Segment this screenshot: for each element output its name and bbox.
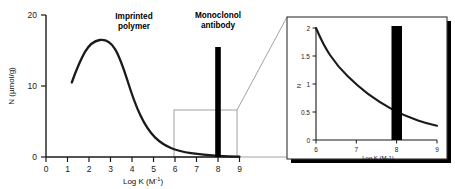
main-ytick-10: 10 — [28, 81, 38, 91]
inset-xtick-8: 8 — [395, 146, 399, 153]
inset-y-axis-label: N — [296, 84, 302, 88]
inset-ytick-1: 1 — [306, 81, 310, 88]
monoclonal-antibody-spike — [215, 47, 221, 157]
inset-ytick-0: 0 — [306, 137, 310, 144]
inset-monoclonal-antibody-spike — [392, 26, 403, 140]
imprinted-polymer-label-line1: Imprinted — [115, 12, 152, 21]
main-xtick-3: 3 — [108, 164, 113, 174]
monoclonal-antibody-label-line1: Monoclonol — [195, 11, 241, 20]
main-xtick-5: 5 — [151, 164, 156, 174]
main-ytick-20: 20 — [28, 10, 38, 20]
inset-xtick-7: 7 — [354, 146, 358, 153]
inset-xtick-9: 9 — [435, 146, 439, 153]
figure-container: 0 10 20 0 1 2 3 4 5 6 7 8 9 — [0, 0, 455, 189]
main-xtick-1: 1 — [65, 164, 70, 174]
main-xtick-8: 8 — [216, 164, 221, 174]
imprinted-polymer-annotation: Imprinted polymer — [115, 12, 152, 31]
main-xtick-9: 9 — [237, 164, 242, 174]
imprinted-polymer-label-line2: polymer — [118, 22, 151, 31]
scientific-figure: 0 10 20 0 1 2 3 4 5 6 7 8 9 — [0, 0, 455, 189]
main-xtick-2: 2 — [87, 164, 92, 174]
main-xtick-0: 0 — [44, 164, 49, 174]
inset-ytick-2: 2 — [306, 25, 310, 32]
inset-ytick-0-5: 0.5 — [301, 109, 310, 116]
monoclonal-antibody-annotation: Monoclonol antibody — [195, 11, 241, 30]
inset-xtick-6: 6 — [314, 146, 318, 153]
main-xtick-6: 6 — [173, 164, 178, 174]
main-y-axis-label: N (µmol/g) — [7, 67, 16, 105]
inset-frame — [287, 17, 447, 159]
monoclonal-antibody-label-line2: antibody — [201, 21, 236, 30]
inset-panel: 0 0.5 1 1.5 2 6 7 8 9 Log K (M-1) N — [287, 17, 451, 163]
main-ytick-0: 0 — [32, 152, 37, 162]
main-xtick-7: 7 — [194, 164, 199, 174]
inset-x-axis-label: Log K (M-1) — [362, 155, 394, 161]
main-xtick-4: 4 — [130, 164, 135, 174]
inset-ytick-1-5: 1.5 — [301, 53, 310, 60]
